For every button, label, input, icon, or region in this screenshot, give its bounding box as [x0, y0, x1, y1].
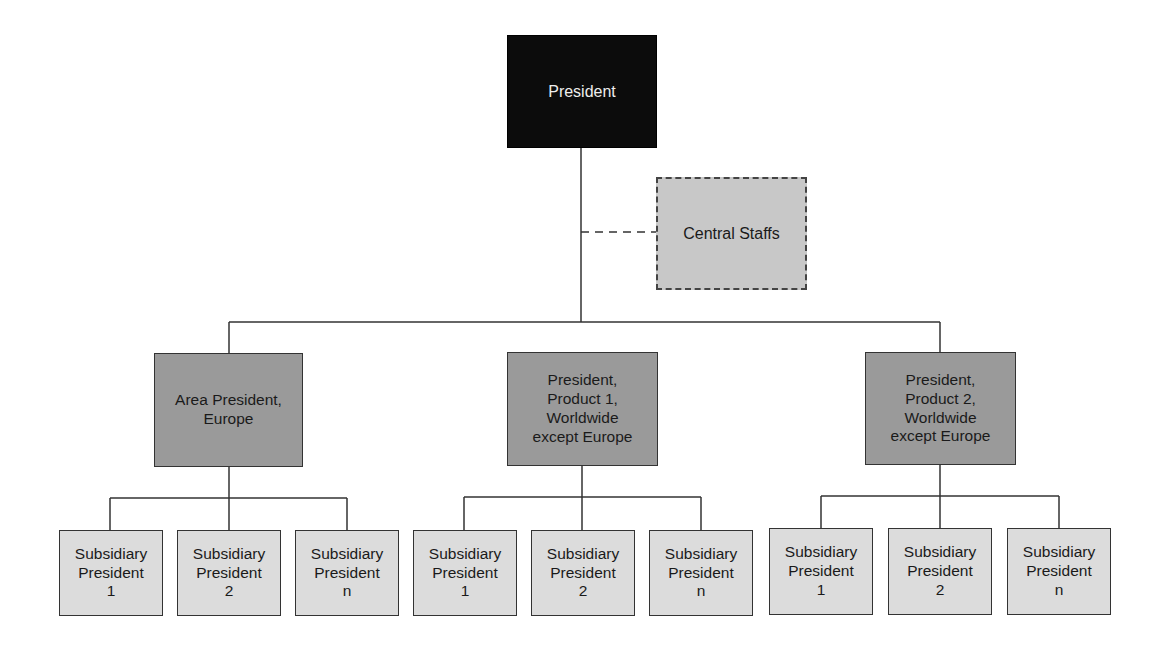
subsidiary-label: Subsidiary President 1: [785, 543, 857, 600]
subsidiary-label: Subsidiary President 2: [193, 545, 265, 602]
president-label: President: [548, 82, 616, 102]
central-staffs-box: Central Staffs: [656, 177, 807, 290]
division-box-product-1: President, Product 1, Worldwide except E…: [507, 352, 658, 466]
subsidiary-box: Subsidiary President n: [1007, 528, 1111, 615]
subsidiary-label: Subsidiary President n: [1023, 543, 1095, 600]
subsidiary-label: Subsidiary President 2: [904, 543, 976, 600]
division-label: President, Product 1, Worldwide except E…: [533, 371, 633, 447]
division-label: Area President, Europe: [175, 391, 282, 429]
division-label: President, Product 2, Worldwide except E…: [891, 371, 991, 447]
central-staffs-label: Central Staffs: [683, 224, 780, 244]
subsidiary-box: Subsidiary President 1: [59, 530, 163, 616]
division-box-area-europe: Area President, Europe: [154, 353, 303, 467]
subsidiary-box: Subsidiary President 2: [177, 530, 281, 616]
subsidiary-label: Subsidiary President 2: [547, 545, 619, 602]
subsidiary-label: Subsidiary President 1: [75, 545, 147, 602]
subsidiary-box: Subsidiary President n: [295, 530, 399, 616]
subsidiary-label: Subsidiary President n: [665, 545, 737, 602]
subsidiary-label: Subsidiary President n: [311, 545, 383, 602]
subsidiary-box: Subsidiary President n: [649, 530, 753, 616]
division-box-product-2: President, Product 2, Worldwide except E…: [865, 352, 1016, 465]
president-box: President: [507, 35, 657, 148]
subsidiary-box: Subsidiary President 1: [769, 528, 873, 615]
subsidiary-box: Subsidiary President 1: [413, 530, 517, 616]
subsidiary-box: Subsidiary President 2: [531, 530, 635, 616]
subsidiary-box: Subsidiary President 2: [888, 528, 992, 615]
subsidiary-label: Subsidiary President 1: [429, 545, 501, 602]
